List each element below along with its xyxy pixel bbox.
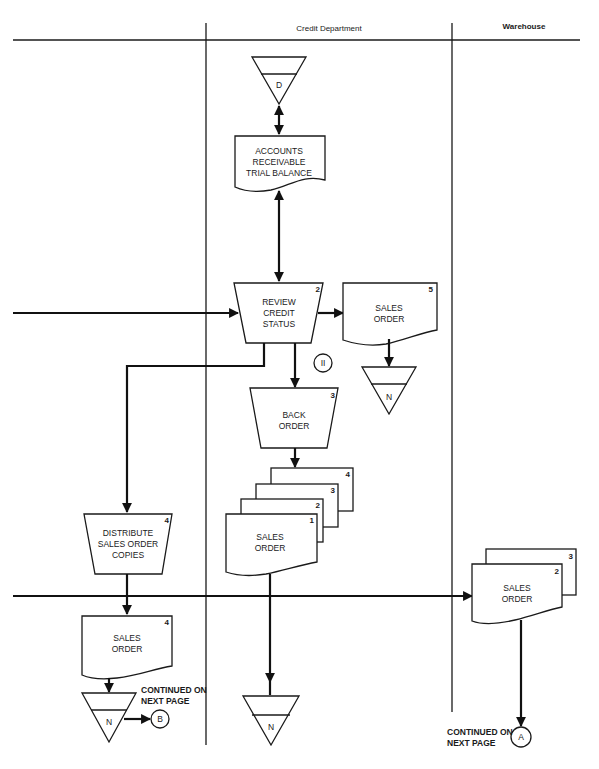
lane-header-warehouse: Warehouse <box>503 22 546 31</box>
storage-label: N <box>268 722 274 732</box>
multi-document-sales-order-1-4: 4 3 2 1 SALES ORDER <box>226 468 353 575</box>
doc-text-line: TRIAL BALANCE <box>246 168 312 178</box>
document-ar-trial-balance: ACCOUNTS RECEIVABLE TRIAL BALANCE <box>235 136 325 191</box>
doc-text-line: ORDER <box>112 644 143 654</box>
lane-header-credit: Credit Department <box>296 24 362 33</box>
doc-text-line: ORDER <box>255 543 286 553</box>
copy-number: 2 <box>555 567 560 576</box>
offline-storage-n-3: N <box>243 696 299 745</box>
op-text-line: COPIES <box>112 550 144 560</box>
copy-number: 1 <box>310 516 315 525</box>
copy-number: 4 <box>346 470 351 479</box>
doc-text-line: SALES <box>113 633 141 643</box>
flowchart-canvas: Credit Department Warehouse D ACCOUNTS R… <box>0 0 599 769</box>
op-text-line: SALES ORDER <box>98 539 158 549</box>
offline-storage-d: D <box>252 57 306 104</box>
offline-storage-n-1: N <box>362 367 416 414</box>
offline-storage-n-2: N <box>82 693 136 742</box>
off-page-connector-b: B <box>151 710 169 728</box>
copy-number: 2 <box>316 501 321 510</box>
op-text-line: CREDIT <box>263 308 295 318</box>
annotation-circle: II <box>314 354 332 372</box>
step-number: 3 <box>331 391 336 400</box>
document-sales-order-5: 5 SALES ORDER <box>343 283 437 345</box>
op-text-line: STATUS <box>263 319 296 329</box>
op-text-line: REVIEW <box>262 297 296 307</box>
copy-number: 4 <box>165 618 170 627</box>
note-continued-b-line1: CONTINUED ON <box>141 685 207 695</box>
manual-op-review-credit-status: 2 REVIEW CREDIT STATUS <box>234 283 323 343</box>
copy-number: 5 <box>429 285 434 294</box>
doc-text-line: SALES <box>503 583 531 593</box>
op-text-line: DISTRIBUTE <box>103 528 154 538</box>
storage-label: N <box>386 392 392 402</box>
op-text-line: ORDER <box>279 421 310 431</box>
note-continued-a-line2: NEXT PAGE <box>447 738 496 748</box>
doc-text-line: SALES <box>375 303 403 313</box>
multi-document-sales-order-2-3: 3 2 SALES ORDER <box>472 549 576 624</box>
step-number: 2 <box>316 285 321 294</box>
note-continued-a-line1: CONTINUED ON <box>447 727 513 737</box>
step-number: 4 <box>165 516 170 525</box>
annotation-label: II <box>321 358 326 368</box>
doc-text-line: RECEIVABLE <box>253 157 306 167</box>
storage-label: D <box>276 80 282 90</box>
note-continued-b-line2: NEXT PAGE <box>141 696 190 706</box>
storage-label: N <box>106 717 112 727</box>
connector-label: B <box>157 714 163 724</box>
copy-number: 3 <box>569 552 574 561</box>
doc-text-line: SALES <box>256 532 284 542</box>
op-text-line: BACK <box>282 410 305 420</box>
doc-text-line: ORDER <box>374 314 405 324</box>
document-sales-order-4: 4 SALES ORDER <box>82 616 172 679</box>
flow-review-to-distribute <box>127 343 264 512</box>
doc-text-line: ACCOUNTS <box>255 146 303 156</box>
off-page-connector-a: A <box>511 727 531 747</box>
connector-label: A <box>518 732 524 742</box>
manual-op-distribute-copies: 4 DISTRIBUTE SALES ORDER COPIES <box>84 514 172 574</box>
manual-op-back-order: 3 BACK ORDER <box>250 388 338 448</box>
copy-number: 3 <box>331 486 336 495</box>
doc-text-line: ORDER <box>502 594 533 604</box>
